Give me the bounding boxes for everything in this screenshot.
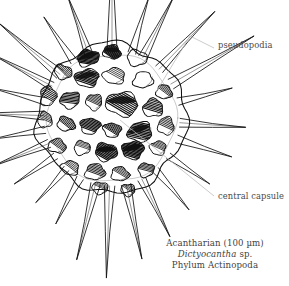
caption-line-1: Acantharian (100 µm)	[165, 238, 264, 248]
pore	[54, 83, 84, 112]
pore	[135, 157, 157, 179]
pore	[77, 112, 103, 137]
pore	[54, 110, 80, 134]
spine-group	[0, 0, 254, 278]
pore	[84, 90, 103, 111]
pore	[58, 154, 83, 177]
pore	[126, 48, 148, 68]
pore	[82, 158, 108, 181]
pore	[92, 136, 121, 166]
pore	[71, 61, 103, 92]
pore	[101, 81, 143, 121]
pore	[131, 70, 155, 90]
pore	[50, 57, 77, 83]
caption-line-2: Dictyocanthasp.	[177, 249, 253, 259]
pore	[148, 137, 167, 156]
acantharian-figure: pseudopodia central capsule Acantharian …	[0, 0, 289, 286]
pore	[109, 161, 132, 182]
pore	[71, 136, 92, 157]
pore	[45, 132, 69, 154]
caption-genus: Dictyocantha	[177, 249, 237, 259]
caption-species: sp.	[239, 249, 252, 259]
pore	[100, 61, 128, 85]
label-central-capsule: central capsule	[218, 191, 284, 201]
label-pseudopodia: pseudopodia	[218, 40, 272, 50]
pore	[100, 117, 124, 139]
caption-line-3: Phylum Actinopoda	[172, 260, 258, 270]
pore	[139, 92, 166, 118]
